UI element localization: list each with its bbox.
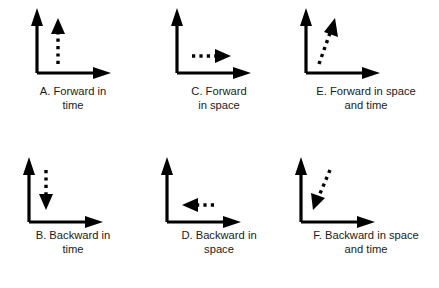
panel-c-caption: C. Forward in space	[146, 84, 292, 112]
space-axis-arrowhead-e	[362, 67, 380, 79]
axes-c	[171, 8, 251, 79]
motion-arrow-d	[182, 198, 218, 212]
axes-a	[31, 8, 111, 79]
panel-a-caption-line1: A. Forward in	[0, 84, 146, 98]
motion-arrow-c	[192, 49, 231, 63]
spacetime-direction-figure: A. Forward in time C. Forward in space	[0, 0, 439, 288]
motion-arrow-b	[39, 170, 53, 210]
panel-b-caption: B. Backward in time	[0, 228, 146, 256]
panel-d-caption: D. Backward in space	[146, 228, 292, 256]
panel-b-caption-line2: time	[0, 242, 146, 256]
panel-e-caption-line1: E. Forward in space	[291, 84, 439, 98]
panel-e-caption: E. Forward in space and time	[291, 84, 439, 112]
panel-e-caption-line2: and time	[291, 98, 439, 112]
panel-c-diagram	[146, 0, 292, 86]
space-axis-arrowhead-c	[233, 67, 251, 79]
time-axis-arrowhead-a	[31, 8, 43, 26]
panel-c-caption-line2: in space	[146, 98, 292, 112]
time-axis-arrowhead-f	[295, 157, 307, 175]
space-axis-arrowhead-f	[357, 216, 375, 228]
time-axis-arrowhead-c	[171, 8, 183, 26]
space-axis-arrowhead-a	[93, 67, 111, 79]
panel-a: A. Forward in time	[0, 0, 146, 144]
panel-b-caption-line1: B. Backward in	[0, 228, 146, 242]
motion-arrow-e	[319, 18, 338, 64]
motion-arrowhead-a	[51, 18, 65, 34]
motion-arrowhead-f	[311, 193, 325, 210]
axes-d	[161, 157, 241, 228]
panel-f-diagram	[293, 144, 439, 230]
axes-f	[295, 157, 375, 228]
panel-e-diagram	[293, 0, 439, 86]
panel-b: B. Backward in time	[0, 144, 146, 288]
time-axis-arrowhead-e	[300, 8, 312, 26]
motion-arrow-f	[311, 170, 330, 210]
panel-f-caption-line2: and time	[291, 242, 439, 256]
motion-arrow-a	[51, 18, 65, 64]
panel-d-caption-line2: space	[146, 242, 292, 256]
panel-d-diagram	[146, 144, 292, 230]
panel-e: E. Forward in space and time	[293, 0, 439, 144]
motion-arrowhead-c	[215, 49, 231, 63]
panel-c: C. Forward in space	[146, 0, 292, 144]
motion-arrowhead-d	[182, 198, 198, 212]
panel-f-caption-line1: F. Backward in space	[291, 228, 439, 242]
time-axis-arrowhead-d	[161, 157, 173, 175]
panel-b-diagram	[0, 144, 146, 230]
panel-d-caption-line1: D. Backward in	[146, 228, 292, 242]
panel-a-diagram	[0, 0, 146, 86]
time-axis-arrowhead-b	[23, 157, 35, 175]
panel-d: D. Backward in space	[146, 144, 292, 288]
panel-f-caption: F. Backward in space and time	[291, 228, 439, 256]
panel-c-caption-line1: C. Forward	[146, 84, 292, 98]
axes-b	[23, 157, 103, 228]
panel-a-caption-line2: time	[0, 98, 146, 112]
panel-a-caption: A. Forward in time	[0, 84, 146, 112]
space-axis-arrowhead-d	[223, 216, 241, 228]
motion-arrowhead-e	[324, 18, 338, 37]
panel-f: F. Backward in space and time	[293, 144, 439, 288]
space-axis-arrowhead-b	[85, 216, 103, 228]
axes-e	[300, 8, 380, 79]
motion-arrowhead-b	[39, 194, 53, 210]
